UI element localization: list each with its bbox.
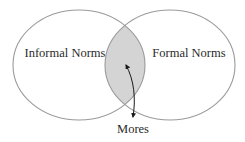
formal-norms-label: Formal Norms (152, 46, 225, 60)
venn-diagram: Informal Norms Formal Norms Mores (0, 0, 245, 142)
overlap-region (105, 10, 235, 120)
mores-label: Mores (117, 122, 149, 136)
informal-norms-label: Informal Norms (25, 46, 106, 60)
